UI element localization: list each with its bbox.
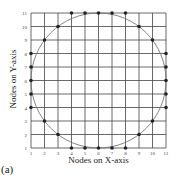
x-axis-label: Nodes on X-axis (31, 155, 166, 165)
node-point (164, 79, 168, 83)
node-point (151, 119, 155, 123)
node-point (43, 119, 47, 123)
y-axis-label: Nodes on Y-axis (8, 44, 18, 114)
y-tick: 9 (25, 38, 28, 43)
y-tick: 8 (25, 52, 28, 57)
node-point (151, 38, 155, 42)
node-point (97, 146, 101, 150)
node-point (83, 146, 87, 150)
node-point (70, 11, 74, 15)
y-tick: 5 (25, 92, 28, 97)
node-point (83, 11, 87, 15)
y-tick: 11 (22, 11, 27, 16)
node-point (29, 79, 33, 83)
y-tick: 10 (22, 25, 28, 30)
node-point (110, 146, 114, 150)
node-point (56, 133, 60, 137)
node-point (137, 133, 141, 137)
node-point (124, 11, 128, 15)
node-point (29, 65, 33, 69)
y-tick: 6 (25, 79, 28, 84)
y-tick: 7 (25, 65, 28, 70)
node-point (43, 38, 47, 42)
node-point (56, 25, 60, 29)
node-point (164, 106, 168, 110)
node-point (97, 11, 101, 15)
node-point (110, 11, 114, 15)
node-point (29, 106, 33, 110)
node-point (137, 25, 141, 29)
node-point (29, 92, 33, 96)
node-point (29, 52, 33, 56)
node-point (164, 65, 168, 69)
node-point (70, 146, 74, 150)
panel-label: (a) (1, 163, 13, 175)
y-tick: 1 (25, 146, 28, 151)
grid-plot: 12345678910111234567891011 (0, 0, 175, 179)
node-point (164, 92, 168, 96)
y-tick: 3 (25, 119, 28, 124)
y-tick: 4 (25, 106, 28, 111)
y-tick: 2 (25, 133, 28, 138)
node-point (124, 146, 128, 150)
node-point (164, 52, 168, 56)
